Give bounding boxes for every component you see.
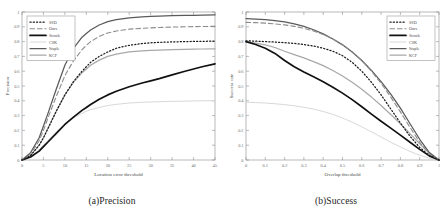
y-tick-label: 0.1 bbox=[14, 143, 19, 148]
x-tick-label: 40 bbox=[191, 163, 195, 168]
x-tick-label: 0.6 bbox=[359, 163, 365, 168]
x-tick-label: 30 bbox=[149, 163, 153, 168]
y-tick-label: 0.4 bbox=[14, 98, 20, 103]
figure-container: 05101520253035404500.10.20.30.40.50.60.7… bbox=[0, 0, 448, 212]
y-tick-label: 0 bbox=[241, 158, 243, 163]
x-tick-label: 10 bbox=[63, 163, 67, 168]
y-tick-label: 0.2 bbox=[238, 128, 243, 133]
x-tick-label: 0 bbox=[245, 163, 247, 168]
x-tick-label: 25 bbox=[127, 163, 131, 168]
y-tick-label: 0.8 bbox=[238, 39, 243, 44]
caption-success: (b)Success bbox=[224, 196, 448, 206]
x-axis-label: Overlap threshold bbox=[325, 172, 361, 177]
y-axis-label: Precision bbox=[5, 76, 10, 95]
x-tick-label: 5 bbox=[42, 163, 44, 168]
x-tick-label: 0.7 bbox=[378, 163, 384, 168]
y-tick-label: 0.4 bbox=[238, 98, 244, 103]
legend-label-csk: CSK bbox=[49, 40, 57, 45]
y-tick-label: 0.6 bbox=[14, 69, 20, 74]
x-axis-label: Location error threshold bbox=[94, 172, 143, 177]
x-tick-label: 0.5 bbox=[340, 163, 345, 168]
y-tick-label: 0.9 bbox=[14, 24, 19, 29]
y-tick-label: 0.7 bbox=[238, 54, 244, 59]
x-tick-label: 0.3 bbox=[301, 163, 306, 168]
y-tick-label: 0.6 bbox=[238, 69, 244, 74]
x-tick-label: 0.8 bbox=[398, 163, 403, 168]
y-axis-label: Success rate bbox=[229, 73, 234, 98]
x-tick-label: 0 bbox=[21, 163, 23, 168]
panel-success: 00.10.20.30.40.50.60.70.80.9100.10.20.30… bbox=[224, 0, 448, 212]
legend-label-ours: Ours bbox=[49, 26, 58, 31]
x-tick-label: 1 bbox=[438, 163, 440, 168]
y-tick-label: 0.3 bbox=[238, 113, 243, 118]
legend-label-csk: CSK bbox=[409, 40, 417, 45]
y-tick-label: 0.5 bbox=[14, 84, 19, 89]
x-tick-label: 0.1 bbox=[263, 163, 268, 168]
legend-label-ssd: SSD bbox=[409, 20, 417, 25]
legend-label-kcf: KCF bbox=[409, 53, 418, 58]
x-tick-label: 35 bbox=[170, 163, 174, 168]
y-tick-label: 0.1 bbox=[238, 143, 243, 148]
panel-precision: 05101520253035404500.10.20.30.40.50.60.7… bbox=[0, 0, 224, 212]
caption-precision: (a)Precision bbox=[0, 196, 224, 206]
legend-label-ours: Ours bbox=[409, 26, 418, 31]
success-chart-svg: 00.10.20.30.40.50.60.70.80.9100.10.20.30… bbox=[224, 0, 448, 184]
y-tick-label: 1 bbox=[241, 10, 243, 15]
x-tick-label: 0.2 bbox=[282, 163, 287, 168]
legend-label-staple: Staple bbox=[49, 46, 60, 51]
legend-label-staple: Staple bbox=[409, 46, 420, 51]
x-tick-label: 45 bbox=[213, 163, 217, 168]
y-tick-label: 0.2 bbox=[14, 128, 19, 133]
precision-chart-svg: 05101520253035404500.10.20.30.40.50.60.7… bbox=[0, 0, 224, 184]
x-tick-label: 15 bbox=[84, 163, 88, 168]
y-tick-label: 0.7 bbox=[14, 54, 20, 59]
legend-label-kcf: KCF bbox=[49, 53, 58, 58]
y-tick-label: 0.5 bbox=[238, 84, 243, 89]
y-tick-label: 1 bbox=[17, 10, 19, 15]
x-tick-label: 20 bbox=[106, 163, 110, 168]
legend-label-ssd: SSD bbox=[49, 20, 57, 25]
precision-plot: 05101520253035404500.10.20.30.40.50.60.7… bbox=[0, 0, 224, 184]
y-tick-label: 0.9 bbox=[238, 24, 243, 29]
x-tick-label: 0.9 bbox=[417, 163, 422, 168]
legend-label-struck: Struck bbox=[49, 33, 61, 38]
y-tick-label: 0.8 bbox=[14, 39, 19, 44]
legend-label-struck: Struck bbox=[409, 33, 421, 38]
x-tick-label: 0.4 bbox=[321, 163, 327, 168]
y-tick-label: 0 bbox=[17, 158, 19, 163]
success-plot: 00.10.20.30.40.50.60.70.80.9100.10.20.30… bbox=[224, 0, 448, 184]
y-tick-label: 0.3 bbox=[14, 113, 19, 118]
